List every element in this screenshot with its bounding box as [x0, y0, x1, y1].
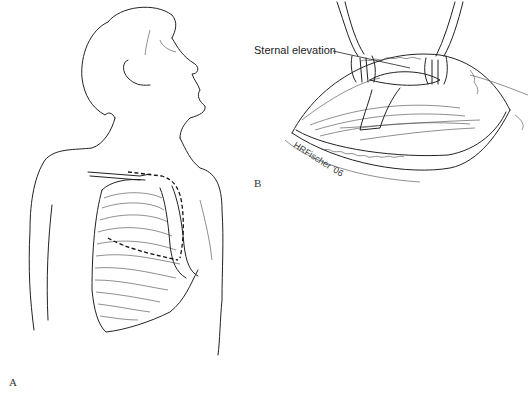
callout-leader-line — [333, 51, 410, 68]
panel-label-b: B — [254, 177, 261, 189]
panel-b-drawing — [0, 0, 530, 395]
panel-label-a: A — [9, 376, 17, 388]
sternal-elevation-label: Sternal elevation — [254, 44, 336, 56]
medical-illustration: Sternal elevation HRFischer '06 B A — [0, 0, 530, 395]
